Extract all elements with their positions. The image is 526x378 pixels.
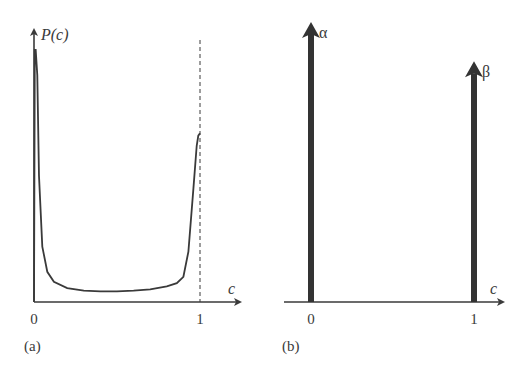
bar-alpha [308, 34, 314, 302]
panel-b: αβ c 0 1 (b) [282, 22, 503, 355]
panel-a: P(c) c 0 1 (a) [24, 26, 240, 355]
bar-label-beta: β [482, 63, 490, 81]
panel-a-xlabel: c [228, 280, 235, 297]
panel-b-xtick-1: 1 [470, 311, 478, 327]
bar-beta [471, 73, 477, 302]
panel-b-label: (b) [282, 338, 300, 355]
panel-a-ylabel: P(c) [40, 26, 69, 44]
panel-a-xtick-1: 1 [196, 311, 204, 327]
panel-a-xtick-0: 0 [30, 311, 38, 327]
bar-label-alpha: α [319, 24, 328, 41]
panel-b-xlabel: c [490, 280, 497, 297]
figure: P(c) c 0 1 (a) αβ c 0 1 (b) [0, 0, 526, 378]
panel-a-label: (a) [24, 338, 41, 355]
panel-a-series-line [34, 50, 200, 302]
panel-b-xtick-0: 0 [307, 311, 315, 327]
